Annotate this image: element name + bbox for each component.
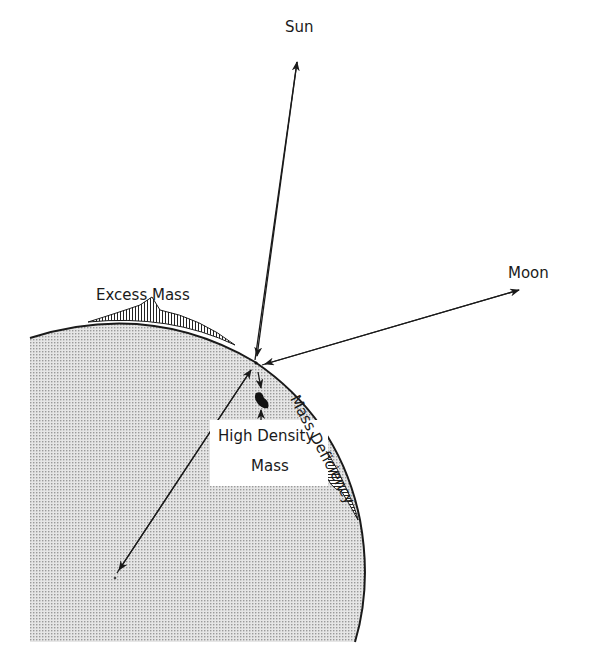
excess-mass-label: Excess Mass [96,286,190,304]
high-density-label-line1: High Density [218,427,314,445]
sun-vector [255,62,297,360]
diagram-canvas [0,0,596,665]
moon-label: Moon [508,264,549,282]
high-density-label-line2: Mass [251,457,289,475]
observation-point [254,361,257,364]
sun-label: Sun [285,18,314,36]
moon-vector [262,290,519,365]
